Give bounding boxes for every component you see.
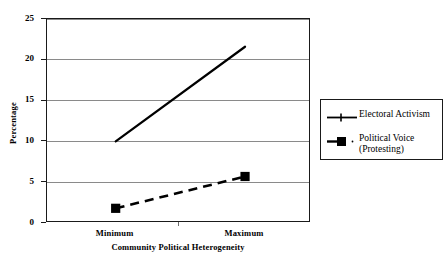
legend-label-electoral-activism: Electoral Activism bbox=[359, 109, 430, 120]
series-electoral-activism bbox=[116, 47, 245, 142]
dashed-square-key-icon bbox=[327, 133, 357, 144]
series-political-voice bbox=[111, 172, 250, 213]
legend: Electoral Activism Political Voice (Prot… bbox=[320, 99, 443, 160]
y-tick-mark bbox=[41, 222, 46, 223]
x-tick-label: Maximum bbox=[204, 228, 284, 238]
legend-entry-electoral-activism[interactable]: Electoral Activism bbox=[327, 109, 430, 120]
y-axis-title: Percentage bbox=[6, 78, 20, 168]
y-tick-label: 20 bbox=[0, 54, 34, 63]
y-tick-label: 25 bbox=[0, 14, 34, 23]
x-tick-mark bbox=[178, 222, 179, 226]
line-chart-figure: Percentage 0510152025 MinimumMaximum Com… bbox=[0, 0, 448, 270]
data-point-marker bbox=[240, 172, 249, 181]
y-tick-label: 15 bbox=[0, 95, 34, 104]
x-tick-label: Minimum bbox=[75, 228, 155, 238]
plot-area bbox=[46, 18, 310, 222]
legend-entry-political-voice[interactable]: Political Voice (Protesting) bbox=[327, 133, 414, 155]
series-layer bbox=[47, 19, 311, 223]
data-point-marker bbox=[111, 204, 120, 213]
series-line-electoral-activism bbox=[116, 47, 245, 142]
y-tick-label: 10 bbox=[0, 136, 34, 145]
y-tick-label: 0 bbox=[0, 218, 34, 227]
series-line-political-voice bbox=[116, 176, 245, 208]
legend-label-political-voice: Political Voice (Protesting) bbox=[359, 133, 414, 155]
x-axis-title: Community Political Heterogeneity bbox=[46, 242, 310, 253]
solid-line-key-icon bbox=[327, 109, 357, 120]
y-tick-label: 5 bbox=[0, 177, 34, 186]
